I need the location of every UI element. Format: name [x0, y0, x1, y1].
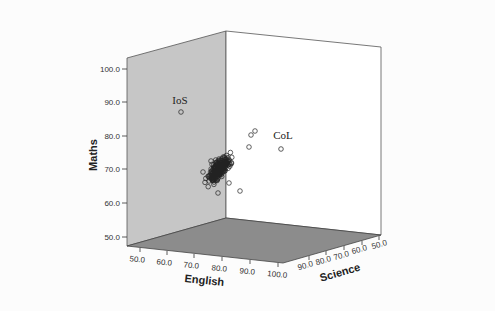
english-tick: 50.0 — [129, 254, 146, 265]
science-tick: 80.0 — [315, 254, 333, 267]
chart-canvas: 100.0 90.0 80.0 70.0 60.0 50.0 Maths 50.… — [0, 0, 495, 311]
english-tick: 90.0 — [239, 266, 256, 277]
science-tick: 50.0 — [371, 238, 389, 251]
right-wall — [226, 31, 381, 235]
maths-tick: 90.0 — [104, 98, 120, 107]
maths-tick: 70.0 — [104, 165, 120, 174]
science-tick: 70.0 — [333, 249, 351, 262]
maths-tick: 80.0 — [104, 132, 120, 141]
col-label: CoL — [273, 129, 293, 141]
maths-tick: 50.0 — [104, 233, 120, 242]
science-tick: 60.0 — [351, 243, 369, 256]
english-tick: 80.0 — [211, 263, 228, 274]
left-wall — [127, 31, 226, 246]
ios-label: IoS — [172, 94, 187, 106]
english-tick: 60.0 — [156, 257, 173, 268]
english-tick: 70.0 — [183, 260, 200, 271]
scatter-3d-chart: 100.0 90.0 80.0 70.0 60.0 50.0 Maths 50.… — [0, 0, 495, 311]
maths-tick: 100.0 — [100, 65, 121, 74]
english-axis-title: English — [184, 272, 225, 288]
english-tick: 100.0 — [267, 269, 288, 280]
maths-axis: 100.0 90.0 80.0 70.0 60.0 50.0 Maths — [87, 65, 127, 242]
maths-axis-title: Maths — [87, 139, 99, 171]
science-tick: 90.0 — [297, 259, 315, 272]
maths-tick: 60.0 — [104, 199, 120, 208]
